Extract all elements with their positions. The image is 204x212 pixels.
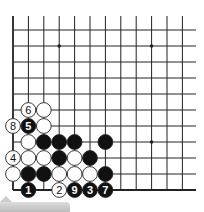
move-number: 2 [56,184,62,196]
move-number: 5 [25,120,31,132]
black-stone [52,135,67,150]
star-point [150,44,154,48]
white-stone: 6 [21,103,36,118]
star-point [57,44,61,48]
black-stone [98,167,113,182]
black-stone [67,135,82,150]
white-stone [21,135,36,150]
white-stone [83,167,98,182]
black-stone [36,135,51,150]
move-number: 8 [10,120,16,132]
black-stone [98,135,113,150]
black-stone: 9 [67,183,82,198]
move-number: 1 [25,184,31,196]
white-stone [36,119,51,134]
white-stone [21,151,36,166]
move-number: 4 [10,152,16,164]
white-stone [67,167,82,182]
black-stone: 5 [21,119,36,134]
white-stone: 2 [52,183,67,198]
white-stone: 8 [6,119,21,134]
go-board: 685412937 [0,0,204,200]
move-number: 3 [87,184,93,196]
white-stone [67,151,82,166]
black-stone: 7 [98,183,113,198]
white-stone [36,103,51,118]
white-stone [52,167,67,182]
black-stone [21,167,36,182]
white-stone [36,151,51,166]
white-stone [6,167,21,182]
black-stone [83,151,98,166]
black-stone [36,167,51,182]
black-stone [52,151,67,166]
black-stone: 1 [21,183,36,198]
white-stone: 4 [6,151,21,166]
move-number: 7 [102,184,108,196]
move-number: 9 [72,184,78,196]
move-number: 6 [25,104,31,116]
black-stone: 3 [83,183,98,198]
diagram-caption-tab [0,202,70,212]
star-point [150,140,154,144]
